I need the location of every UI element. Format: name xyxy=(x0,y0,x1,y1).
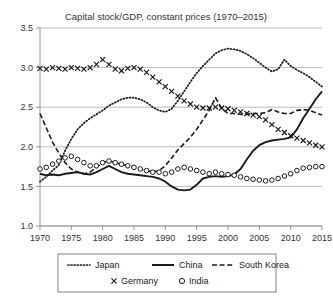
legend-label: Germany xyxy=(121,276,159,286)
y-tick-label: 2.0 xyxy=(20,142,33,152)
marker-circle xyxy=(295,168,300,173)
marker-circle xyxy=(270,178,275,183)
marker-circle xyxy=(320,164,325,169)
marker-circle xyxy=(307,165,312,170)
marker-circle xyxy=(313,164,318,169)
marker-circle xyxy=(88,164,93,169)
marker-circle xyxy=(94,164,99,169)
marker-circle xyxy=(207,171,212,176)
y-tick-label: 3.0 xyxy=(20,63,33,73)
marker-circle xyxy=(282,174,287,179)
x-tick-label: 2000 xyxy=(218,233,238,243)
legend-label: India xyxy=(189,276,209,286)
x-tick-label: 1980 xyxy=(93,233,113,243)
x-tick-label: 1985 xyxy=(124,233,144,243)
marker-circle xyxy=(38,167,43,172)
marker-circle xyxy=(100,160,105,165)
legend-swatch-circle-marker-swatch xyxy=(179,278,184,283)
marker-circle xyxy=(107,159,112,164)
marker-circle xyxy=(276,176,281,181)
chart-title: Capital stock/GDP, constant prices (1970… xyxy=(65,11,267,22)
marker-circle xyxy=(238,175,243,180)
y-tick-label: 2.5 xyxy=(20,102,33,112)
marker-circle xyxy=(188,167,193,172)
marker-circle xyxy=(176,167,181,172)
marker-circle xyxy=(144,168,149,173)
marker-circle xyxy=(251,177,256,182)
y-tick-label: 1.0 xyxy=(20,221,33,231)
marker-circle xyxy=(288,171,293,176)
marker-circle xyxy=(75,157,80,162)
marker-circle xyxy=(50,162,55,167)
marker-circle xyxy=(232,173,237,178)
x-tick-label: 1975 xyxy=(61,233,81,243)
marker-circle xyxy=(301,166,306,171)
marker-circle xyxy=(82,160,87,165)
x-tick-label: 1995 xyxy=(187,233,207,243)
marker-circle xyxy=(44,165,49,170)
legend-label: South Korea xyxy=(239,260,289,270)
marker-circle xyxy=(182,165,187,170)
marker-circle xyxy=(63,156,68,161)
marker-circle xyxy=(57,159,62,164)
marker-circle xyxy=(113,160,118,165)
x-tick-label: 2005 xyxy=(249,233,269,243)
marker-circle xyxy=(245,176,250,181)
marker-circle xyxy=(226,172,231,177)
legend-label: Japan xyxy=(95,260,120,270)
marker-circle xyxy=(169,170,174,175)
marker-circle xyxy=(194,168,199,173)
marker-circle xyxy=(201,170,206,175)
marker-circle xyxy=(213,170,218,175)
marker-circle xyxy=(157,170,162,175)
x-tick-label: 1970 xyxy=(30,233,50,243)
legend-label: China xyxy=(179,260,203,270)
x-tick-label: 2010 xyxy=(281,233,301,243)
y-tick-label: 1.5 xyxy=(20,182,33,192)
marker-circle xyxy=(125,164,130,169)
y-tick-label: 3.5 xyxy=(20,23,33,33)
x-tick-label: 2015 xyxy=(312,233,332,243)
x-tick-label: 1990 xyxy=(155,233,175,243)
marker-circle xyxy=(263,179,268,184)
marker-circle xyxy=(138,167,143,172)
marker-circle xyxy=(257,178,262,183)
marker-circle xyxy=(219,171,224,176)
marker-circle xyxy=(151,170,156,175)
chart-legend: JapanChinaSouth KoreaGermanyIndia xyxy=(58,254,289,292)
marker-circle xyxy=(69,154,74,159)
capital-stock-chart: Capital stock/GDP, constant prices (1970… xyxy=(0,0,333,300)
marker-circle xyxy=(163,171,168,176)
marker-circle xyxy=(119,162,124,167)
marker-circle xyxy=(132,165,137,170)
